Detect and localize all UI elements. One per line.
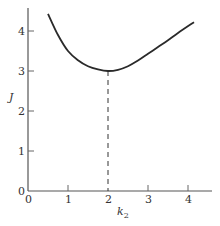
y-axis-label: J xyxy=(7,91,14,104)
x-axis-label: k2 xyxy=(117,205,129,220)
x-tick-label-3: 3 xyxy=(145,193,152,206)
y-tick-label-1: 1 xyxy=(18,145,25,158)
cost-curve xyxy=(48,14,194,71)
x-ticks xyxy=(68,185,188,191)
x-tick-label-0: 0 xyxy=(25,193,32,206)
y-tick-label-4: 4 xyxy=(18,25,25,38)
y-tick-label-0: 0 xyxy=(18,185,25,198)
x-axis-label-subscript: 2 xyxy=(124,211,129,220)
x-tick-label-2: 2 xyxy=(105,193,112,206)
chart: 0 1 2 3 4 0 1 2 3 4 J k2 xyxy=(0,0,220,226)
x-tick-label-1: 1 xyxy=(65,193,72,206)
x-tick-label-4: 4 xyxy=(185,193,192,206)
y-tick-label-2: 2 xyxy=(18,105,25,118)
y-tick-labels: 0 1 2 3 4 xyxy=(18,25,25,198)
y-tick-label-3: 3 xyxy=(18,65,25,78)
y-ticks xyxy=(28,31,34,151)
x-tick-labels: 0 1 2 3 4 xyxy=(25,193,192,206)
